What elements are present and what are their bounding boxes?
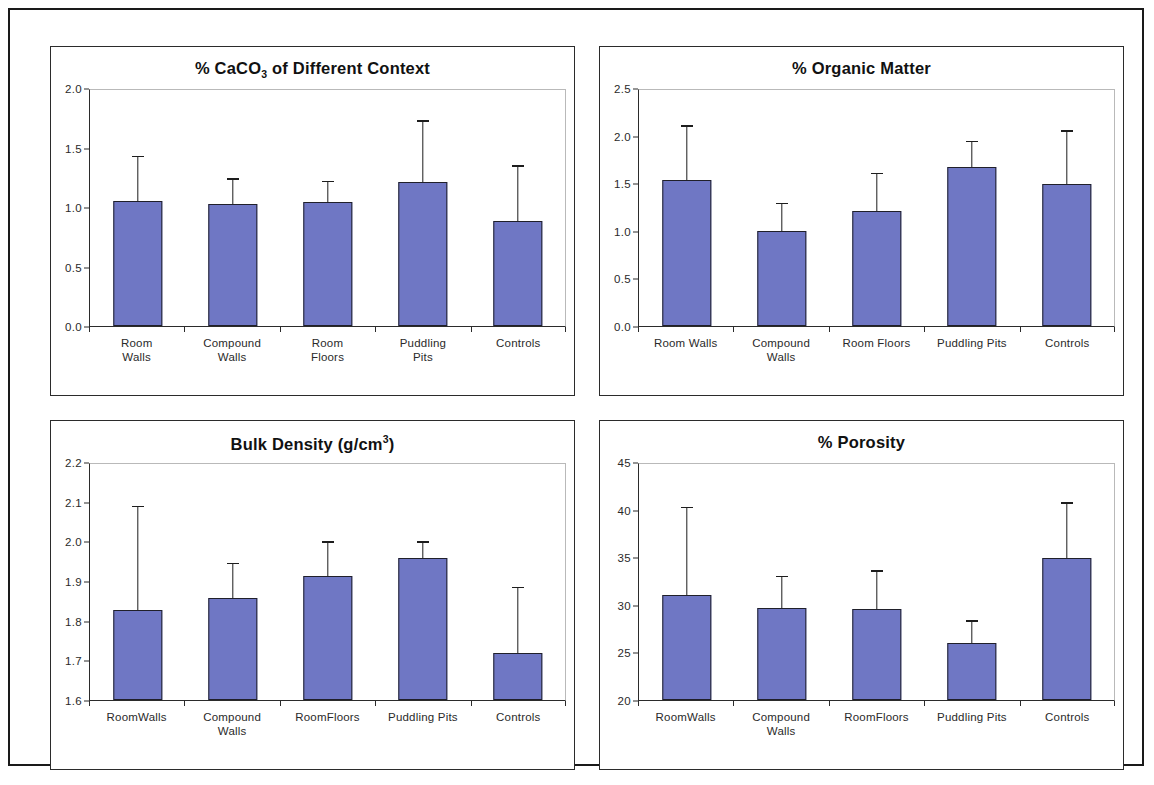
error-bar-cap: [776, 576, 788, 577]
error-bar-cap: [227, 563, 239, 564]
x-tick-group: Controls: [471, 329, 566, 389]
bar: [852, 211, 901, 326]
y-tick-label-bulk-density: 2.0: [65, 536, 82, 548]
bar-group: [639, 90, 734, 326]
bar-group: [375, 464, 470, 700]
x-tick-mark: [829, 327, 830, 332]
plot-wrap-bulk-density: 1.61.71.81.92.02.12.2 RoomWallsCompoundW…: [51, 463, 566, 763]
error-bar-stem: [517, 167, 518, 221]
error-bar-cap: [132, 506, 144, 507]
y-tick-label-organic-matter: 1.0: [614, 226, 631, 238]
error-bar-cap: [227, 178, 239, 179]
x-tick-group: RoomWalls: [638, 703, 733, 763]
bar: [662, 595, 711, 700]
chart-title-caco3: % CaCO3 of Different Context: [51, 59, 574, 80]
bar-group: [280, 464, 375, 700]
y-tick-label-porosity: 20: [618, 695, 631, 707]
x-tick-mark: [829, 701, 830, 706]
y-tick-label-caco3: 1.0: [65, 202, 82, 214]
x-tick-mark: [924, 327, 925, 332]
chart-title-porosity: % Porosity: [600, 433, 1123, 452]
error-bar-stem: [232, 180, 233, 205]
error-bar-cap: [966, 620, 978, 621]
chart-panel-bulk-density: Bulk Density (g/cm3) 1.61.71.81.92.02.12…: [50, 420, 575, 770]
x-tick-label: RoomFloors: [280, 710, 375, 724]
error-bar-cap: [417, 120, 429, 121]
bar: [1042, 184, 1091, 326]
error-bar-stem: [517, 588, 518, 653]
y-tick-label-porosity: 30: [618, 600, 631, 612]
y-tick-label-bulk-density: 1.9: [65, 576, 82, 588]
error-bar-stem: [232, 564, 233, 597]
bar: [303, 202, 352, 326]
error-bar-stem: [422, 543, 423, 559]
chart-panel-porosity: % Porosity 202530354045 RoomWallsCompoun…: [599, 420, 1124, 770]
x-tick-mark: [638, 701, 639, 706]
x-tick-group: RoomFloors: [829, 703, 924, 763]
bars-layer-organic-matter: [639, 90, 1114, 326]
error-bar-stem: [876, 174, 877, 211]
bar: [303, 576, 352, 700]
x-tick-mark: [375, 701, 376, 706]
error-bar-stem: [327, 182, 328, 202]
y-tick-label-bulk-density: 1.7: [65, 655, 82, 667]
bars-layer-porosity: [639, 464, 1114, 700]
error-bar-cap: [1061, 502, 1073, 503]
chart-panel-grid: % CaCO3 of Different Context 0.00.51.01.…: [42, 38, 1146, 758]
x-tick-mark: [184, 327, 185, 332]
y-tick-label-bulk-density: 1.6: [65, 695, 82, 707]
x-tick-group: RoomWalls: [89, 703, 184, 763]
error-bar-stem: [876, 572, 877, 610]
y-tick-label-porosity: 45: [618, 457, 631, 469]
x-tick-mark: [375, 327, 376, 332]
x-tick-mark: [638, 327, 639, 332]
x-tick-label: Controls: [1020, 710, 1115, 724]
y-tick-label-caco3: 0.0: [65, 321, 82, 333]
bar-group: [639, 464, 734, 700]
y-tick-label-bulk-density: 2.2: [65, 457, 82, 469]
y-tick-label-bulk-density: 1.8: [65, 616, 82, 628]
x-axis-labels-bulk-density: RoomWallsCompoundWallsRoomFloorsPuddling…: [89, 703, 566, 763]
x-tick-label: Room Floors: [829, 336, 924, 350]
error-bar-stem: [327, 543, 328, 576]
bar-group: [470, 90, 565, 326]
x-tick-mark: [89, 327, 90, 332]
x-tick-group: PuddlingPits: [375, 329, 470, 389]
y-tick-label-caco3: 0.5: [65, 262, 82, 274]
plot-area-bulk-density: [89, 463, 566, 701]
chart-title-organic-matter: % Organic Matter: [600, 59, 1123, 78]
bar-group: [90, 464, 185, 700]
error-bar-cap: [512, 587, 524, 588]
error-bar-stem: [686, 508, 687, 595]
bar-group: [185, 464, 280, 700]
bar-group: [185, 90, 280, 326]
x-tick-mark: [565, 327, 566, 332]
x-tick-group: RoomWalls: [89, 329, 184, 389]
plot-wrap-organic-matter: 0.00.51.01.52.02.5 Room WallsCompoundWal…: [600, 89, 1115, 389]
x-tick-mark: [733, 327, 734, 332]
error-bar-cap: [322, 181, 334, 182]
bar: [1042, 558, 1091, 700]
x-axis-labels-organic-matter: Room WallsCompoundWallsRoom FloorsPuddli…: [638, 329, 1115, 389]
y-tick-label-organic-matter: 2.0: [614, 131, 631, 143]
y-axis-labels-bulk-density: 1.61.71.81.92.02.12.2: [51, 463, 89, 701]
x-tick-label: Room Walls: [638, 336, 733, 350]
bar-group: [280, 90, 375, 326]
error-bar-stem: [971, 622, 972, 644]
figure-outer-frame: % CaCO3 of Different Context 0.00.51.01.…: [8, 8, 1144, 766]
x-tick-mark: [471, 327, 472, 332]
error-bar-cap: [512, 165, 524, 166]
x-tick-label: Puddling Pits: [924, 336, 1019, 350]
x-tick-group: CompoundWalls: [184, 329, 279, 389]
error-bar-stem: [137, 507, 138, 609]
error-bar-cap: [966, 141, 978, 142]
bar: [113, 610, 162, 700]
x-tick-group: CompoundWalls: [733, 703, 828, 763]
error-bar-cap: [322, 541, 334, 542]
x-tick-label: RoomWalls: [638, 710, 733, 724]
x-tick-mark: [1020, 701, 1021, 706]
bar: [757, 608, 806, 700]
x-tick-mark: [184, 701, 185, 706]
bar: [852, 609, 901, 700]
error-bar-stem: [137, 157, 138, 201]
